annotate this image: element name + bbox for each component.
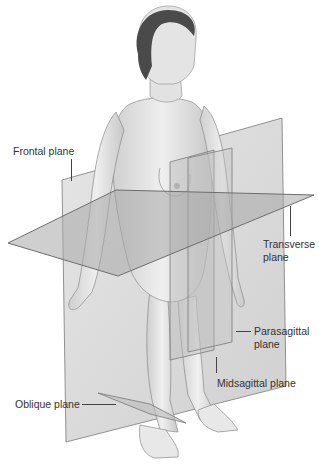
oblique-plane-label: Oblique plane: [15, 398, 80, 410]
figure-illustration: [0, 0, 319, 467]
transverse-plane-label-line2: plane: [263, 251, 289, 263]
anatomical-planes-figure: Frontal plane Transverse plane Parasagit…: [0, 0, 319, 467]
transverse-plane-leader: [290, 206, 291, 236]
midsagittal-plane-label: Midsagittal plane: [217, 377, 296, 389]
parasagittal-plane-leader: [236, 331, 251, 332]
oblique-plane-leader: [82, 404, 116, 405]
parasagittal-plane-label-line1: Parasagittal: [254, 325, 309, 337]
parasagittal-plane-label-line2: plane: [254, 338, 280, 350]
transverse-plane-label-line1: Transverse: [263, 238, 315, 250]
frontal-plane-leader: [71, 159, 72, 181]
frontal-plane-label: Frontal plane: [13, 145, 74, 157]
midsagittal-plane-leader: [216, 357, 217, 373]
parasagittal-plane: [188, 148, 232, 352]
